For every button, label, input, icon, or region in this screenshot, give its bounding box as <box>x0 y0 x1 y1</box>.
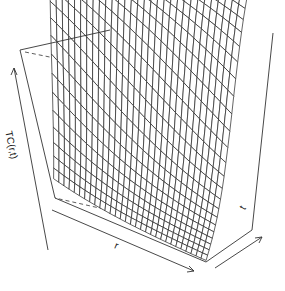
t-axis-arrow <box>215 237 262 268</box>
surface-plot <box>0 0 285 291</box>
surface-mesh <box>50 0 258 260</box>
